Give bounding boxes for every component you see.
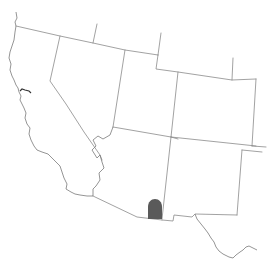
rio-grande-border <box>195 214 257 258</box>
idaho-nevada-border-stub <box>93 24 97 43</box>
arizona-new-mexico-border <box>162 137 171 219</box>
colorado-river-border <box>92 127 113 196</box>
colorado-kansas-border-stub <box>252 146 266 147</box>
california-nevada-border <box>50 36 102 160</box>
nevada-utah-border <box>113 50 125 127</box>
southwest-us-map <box>0 0 271 274</box>
colorado-east-border <box>252 79 256 146</box>
highlighted-range-area <box>148 199 162 219</box>
utah-wyoming-border <box>156 55 256 80</box>
map-container <box>0 0 271 274</box>
new-mexico-mexico-border <box>162 214 237 221</box>
wyoming-colorado-border-stub <box>232 58 233 80</box>
san-francisco-bay <box>20 89 31 93</box>
idaho-utah-border-stub <box>158 33 161 55</box>
utah-colorado-border <box>171 72 178 137</box>
state-borders <box>9 12 266 258</box>
california-coastline <box>9 12 93 196</box>
oregon-border <box>16 26 158 55</box>
oklahoma-border-stub <box>242 150 262 152</box>
utah-arizona-border <box>113 127 178 139</box>
new-mexico-east-border <box>237 150 242 215</box>
colorado-new-mexico-border <box>171 137 256 146</box>
